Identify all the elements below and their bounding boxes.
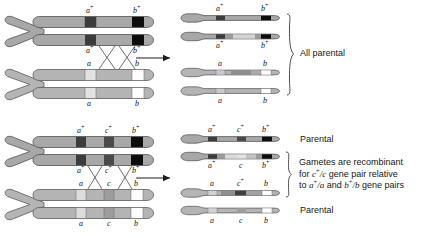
recombinant-line-2-post: gene pair relative [326,169,398,179]
bottom-recombinant-brace [286,152,292,197]
label-bot-gamete4-a: a [210,217,214,225]
top-all-parental-brace [287,14,294,95]
label-top-left-rec-a: a [87,60,91,68]
label-bot-gamete4-c: c [239,217,243,225]
top-gamete-1 [181,14,280,22]
bottom-meiosis-arrow [136,175,170,181]
label-bot-left-dom-b-plus: b+ [132,127,139,135]
label-top-gamete1-a-plus: a+ [216,5,223,13]
bottom-gamete-1 [181,135,280,143]
label-bot-gamete2-a-plus: a+ [208,162,215,170]
label-bot-left-dom2-c-plus: c+ [105,167,112,175]
label-bot-left-rec-b: b [134,180,138,188]
recombinant-line-1: Gametes are recombinant [299,157,403,167]
label-bot-left-dom-a-plus: a+ [77,127,84,135]
label-top-gamete3-a: a [218,60,222,68]
label-bot-gamete1-b-plus: b+ [262,126,269,134]
label-bot-gamete3-c-plus: c+ [237,180,244,188]
label-top-left-rec2-b: b [135,100,139,108]
label-bot-left-rec-c: c [107,180,111,188]
top-crossover-strands [99,46,135,69]
label-top-left-rec-b: b [135,60,139,68]
label-bot-left-dom2-b-plus: b+ [132,167,139,175]
parental-label-bottom: Parental [300,205,334,217]
label-top-left-dom-b-plus: b+ [133,7,140,15]
label-bot-gamete4-b: b [264,217,268,225]
gene-pair-b: b+/b [344,180,359,190]
label-bot-left-dom-c-plus: c+ [105,127,112,135]
gene-pair-a: a+/a [309,180,324,190]
label-top-gamete4-a: a [218,97,222,105]
label-top-left-rec2-a: a [87,100,91,108]
top-gamete-3 [181,68,280,76]
top-gamete-4 [181,87,280,95]
label-top-gamete2-a-plus: a+ [216,42,223,50]
label-bot-left-rec-a: a [79,180,83,188]
top-meiosis-arrow [136,55,170,61]
label-top-gamete4-b: b [263,97,267,105]
label-top-left-dom2-b-plus: b+ [133,47,140,55]
label-top-gamete1-b-plus: b+ [261,5,268,13]
label-top-left-dom2-a-plus: a+ [86,47,93,55]
bottom-gamete-4 [181,206,280,214]
bottom-gamete-2 [181,152,280,160]
label-bot-left-rec2-a: a [79,220,83,228]
gene-pair-c: c+/c [312,169,326,179]
bottom-right-gametes [181,135,280,215]
top-right-gametes [181,14,280,95]
label-bot-gamete2-c: c [239,162,243,170]
recombinant-line-3-post: gene pairs [359,180,404,190]
bottom-gamete-3 [181,189,280,197]
recombinant-line-2-pre: for [299,169,312,179]
parental-label-top: Parental [300,134,334,146]
genetics-diagram [0,0,432,238]
label-bot-gamete3-a: a [210,180,214,188]
label-bot-left-rec2-b: b [134,220,138,228]
recombinant-line-3-mid: and [324,180,344,190]
label-top-gamete2-b-plus: b+ [261,42,268,50]
top-left-dominant-homolog [5,16,154,47]
figure-canvas: a+ b+ a+ b+ a b a b a+ b+ a+ b+ a b a b … [0,0,432,238]
recombinant-line-3-pre: to [299,180,309,190]
recombinant-annotation: Gametes are recombinant for c+/c gene pa… [299,157,404,192]
label-bot-gamete1-c-plus: c+ [237,126,244,134]
label-bot-gamete2-b-plus: b+ [262,162,269,170]
label-bot-left-rec2-c: c [107,220,111,228]
all-parental-label: All parental [300,48,345,60]
bottom-left-dominant-homolog [5,136,153,166]
label-bot-gamete3-b: b [264,180,268,188]
bottom-left-recessive-homolog [5,189,153,219]
label-top-left-dom-a-plus: a+ [86,7,93,15]
label-bot-gamete1-a-plus: a+ [208,126,215,134]
label-bot-left-dom2-a-plus: a+ [77,167,84,175]
top-left-recessive-homolog [5,69,153,99]
label-top-gamete3-b: b [263,60,267,68]
